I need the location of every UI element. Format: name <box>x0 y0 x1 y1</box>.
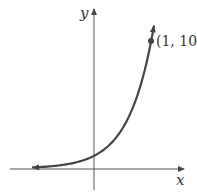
exponential-curve <box>33 26 154 167</box>
point-label: (1, 10) <box>156 33 197 49</box>
graph: y x (1, 10) <box>0 0 197 193</box>
point-marker <box>148 38 154 44</box>
y-axis-label: y <box>79 4 89 22</box>
x-axis-label: x <box>176 171 185 189</box>
